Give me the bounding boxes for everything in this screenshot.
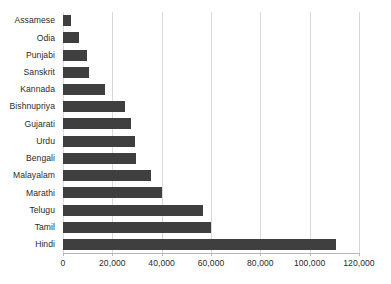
x-axis-tick-mark xyxy=(63,253,64,256)
bar-row xyxy=(63,64,359,81)
y-axis-tick-label: Punjabi xyxy=(0,46,59,63)
y-axis-tick-label: Tamil xyxy=(0,219,59,236)
bar xyxy=(63,170,151,181)
bar xyxy=(63,239,336,250)
x-axis-tick-label: 100,000 xyxy=(294,258,325,268)
x-axis-tick-mark xyxy=(162,253,163,256)
y-axis-tick-label: Bengali xyxy=(0,150,59,167)
y-axis-category-labels: AssameseOdiaPunjabiSanskritKannadaBishnu… xyxy=(0,12,59,253)
bar xyxy=(63,136,135,147)
bar-row xyxy=(63,133,359,150)
bar xyxy=(63,153,136,164)
bar-row xyxy=(63,236,359,253)
bar-row xyxy=(63,12,359,29)
x-axis-tick-label: 80,000 xyxy=(247,258,274,268)
y-axis-tick-label: Marathi xyxy=(0,184,59,201)
bar xyxy=(63,67,89,78)
y-axis-tick-label: Urdu xyxy=(0,133,59,150)
x-axis-tick-label: 40,000 xyxy=(148,258,175,268)
x-axis-tick-mark xyxy=(310,253,311,256)
x-axis-tick-mark xyxy=(211,253,212,256)
bar-chart: AssameseOdiaPunjabiSanskritKannadaBishnu… xyxy=(0,0,391,284)
bar-row xyxy=(63,98,359,115)
bar-row xyxy=(63,81,359,98)
bar-row xyxy=(63,150,359,167)
x-axis-tick-mark xyxy=(260,253,261,256)
bar xyxy=(63,205,203,216)
x-axis-tick-mark xyxy=(112,253,113,256)
bar-row xyxy=(63,201,359,218)
bar-row xyxy=(63,219,359,236)
bar-row xyxy=(63,167,359,184)
bar xyxy=(63,222,211,233)
bars-layer xyxy=(63,12,359,253)
y-axis-tick-label: Gujarati xyxy=(0,115,59,132)
x-axis-tick-label: 20,000 xyxy=(99,258,126,268)
y-axis-tick-label: Hindi xyxy=(0,236,59,253)
bar-row xyxy=(63,184,359,201)
bar xyxy=(63,118,131,129)
bar xyxy=(63,187,162,198)
x-axis-tick-label: 60,000 xyxy=(198,258,225,268)
x-axis-tick-label: 0 xyxy=(61,258,66,268)
bar xyxy=(63,84,105,95)
bar xyxy=(63,101,125,112)
y-axis-tick-label: Odia xyxy=(0,29,59,46)
y-axis-tick-label: Malayalam xyxy=(0,167,59,184)
gridline xyxy=(359,12,360,253)
y-axis-tick-label: Bishnupriya xyxy=(0,98,59,115)
bar xyxy=(63,50,87,61)
y-axis-tick-label: Sanskrit xyxy=(0,64,59,81)
bar xyxy=(63,32,79,43)
bar xyxy=(63,15,71,26)
x-axis-tick-labels: 020,00040,00060,00080,000100,000120,000 xyxy=(0,258,391,272)
y-axis-tick-label: Telugu xyxy=(0,201,59,218)
y-axis-tick-label: Kannada xyxy=(0,81,59,98)
x-axis-tick-mark xyxy=(359,253,360,256)
plot-area xyxy=(63,12,359,253)
y-axis-tick-label: Assamese xyxy=(0,12,59,29)
x-axis-tick-label: 120,000 xyxy=(343,258,374,268)
bar-row xyxy=(63,46,359,63)
bar-row xyxy=(63,29,359,46)
bar-row xyxy=(63,115,359,132)
